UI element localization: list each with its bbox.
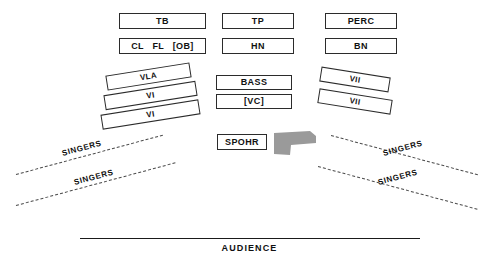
woodwind-token-row: CL FL [OB] <box>120 42 205 51</box>
section-box-vc[interactable]: [VC] <box>216 94 292 109</box>
singers-line-left-2 <box>16 162 176 206</box>
section-box-woodwinds[interactable]: CL FL [OB] <box>119 38 206 54</box>
section-box-tp[interactable]: TP <box>222 13 294 29</box>
section-label-vla: VLA <box>139 71 157 83</box>
section-label-vii-2: VII <box>349 96 361 107</box>
section-box-vii-2[interactable]: VII <box>317 88 392 114</box>
section-box-tb[interactable]: TB <box>119 13 206 29</box>
section-label-hn: HN <box>251 42 265 51</box>
section-box-perc[interactable]: PERC <box>325 13 397 29</box>
section-label-vii-1: VII <box>349 74 361 85</box>
section-box-bn[interactable]: BN <box>325 38 397 54</box>
section-label-vi-1: VI <box>146 90 156 100</box>
section-label-cl: CL <box>131 42 144 51</box>
section-label-tb: TB <box>156 17 169 26</box>
section-box-spohr[interactable]: SPOHR <box>217 134 267 150</box>
section-box-bass[interactable]: BASS <box>216 75 292 90</box>
section-label-bn: BN <box>354 42 368 51</box>
singers-label-left-1: SINGERS <box>61 139 103 158</box>
section-box-vii-1[interactable]: VII <box>319 67 390 93</box>
section-label-fl: FL <box>152 42 164 51</box>
section-label-perc: PERC <box>348 17 375 26</box>
section-label-spohr: SPOHR <box>225 138 259 147</box>
podium-shape-icon <box>274 131 318 156</box>
section-label-vc: [VC] <box>244 97 264 106</box>
section-label-vi-2: VI <box>146 109 156 119</box>
section-label-tp: TP <box>252 17 264 26</box>
audience-divider <box>80 238 420 239</box>
section-box-hn[interactable]: HN <box>222 38 294 54</box>
singers-line-right-1 <box>331 135 478 175</box>
section-label-ob: [OB] <box>173 42 194 51</box>
orchestra-seating-diagram: TB TP PERC CL FL [OB] HN BN BASS [VC] VL… <box>0 0 499 257</box>
conductor-podium <box>274 131 318 156</box>
section-label-bass: BASS <box>241 78 268 87</box>
singers-label-right-2: SINGERS <box>377 168 419 187</box>
audience-label: AUDIENCE <box>0 243 499 253</box>
